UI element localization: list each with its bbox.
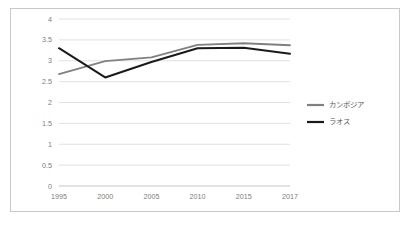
x-axis-tick-label: 2015 [236, 192, 252, 201]
y-axis-tick-label: 0 [48, 182, 52, 191]
x-axis-tick-label: 1995 [51, 192, 67, 201]
legend-label-2: ラオス [329, 117, 350, 126]
y-axis-tick-label: 3.5 [42, 35, 52, 44]
y-axis-tick-label: 2.5 [42, 77, 52, 86]
x-axis-tick-label: 2017 [282, 192, 298, 201]
chart-frame: 00.511.522.533.5419952000200520102015201… [10, 8, 400, 212]
y-axis-tick-label: 1.5 [42, 119, 52, 128]
x-axis-tick-label: 2005 [143, 192, 159, 201]
chart-plot-area: 00.511.522.533.5419952000200520102015201… [11, 9, 399, 211]
series-line-2 [59, 48, 290, 78]
x-axis-tick-label: 2000 [97, 192, 113, 201]
y-axis-tick-label: 3 [48, 56, 52, 65]
y-axis-tick-label: 4 [48, 15, 52, 24]
y-axis-tick-label: 2 [48, 98, 52, 107]
legend-label-1: カンボジア [329, 100, 364, 109]
x-axis-tick-label: 2010 [190, 192, 206, 201]
y-axis-tick-label: 0.5 [42, 161, 52, 170]
line-chart: 00.511.522.533.5419952000200520102015201… [11, 9, 399, 211]
y-axis-tick-label: 1 [48, 140, 52, 149]
